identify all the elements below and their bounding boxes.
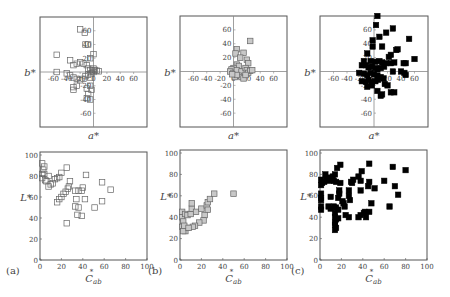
data-point [96,69,102,75]
data-point [394,47,400,53]
data-point [74,196,80,202]
data-point [338,162,344,168]
data-point [54,52,60,58]
x-tick-label: -40 [201,75,212,83]
plot-a-bottom: 020406080100020406080100Cab*L* [19,152,154,287]
data-point [347,197,353,203]
y-axis-label: L* [159,191,172,202]
y-tick-label: 0 [314,257,318,265]
data-point [392,183,398,189]
data-point [205,207,211,213]
data-point [318,207,324,213]
data-point [189,201,195,207]
plot-c-bottom: 020406080100020406080100Cab*L* [299,150,434,287]
data-point [207,196,213,202]
data-point [381,178,387,184]
data-point [381,64,387,70]
y-tick-label: -40 [220,96,231,104]
x-tick-label: 0 [318,263,322,271]
data-point [229,72,235,78]
data-point [332,227,338,233]
panel-label-b: (b) [148,265,162,276]
x-tick-label: -60 [188,75,199,83]
x-tick-label: 0 [178,263,182,271]
x-tick-label: 40 [116,75,125,83]
data-point [392,90,398,96]
data-point [366,209,372,215]
plot-b-top: -60-40-200204060-60-40-20204060a*b* [164,16,287,141]
data-point [83,172,89,178]
plot-a-top: -60-40-200204060-60-40-20204060a*b* [24,17,147,141]
data-point [377,34,383,40]
x-axis-label: a* [88,130,99,141]
data-point [247,38,253,44]
y-tick-label: 60 [363,26,372,34]
x-axis-label: a* [228,130,239,141]
data-point [249,67,255,73]
y-tick-label: -20 [220,82,231,90]
data-point [338,180,344,186]
data-point [46,184,52,190]
data-point [392,60,398,65]
data-point [379,92,385,98]
data-point [403,72,409,78]
y-tick-label: 100 [165,150,178,158]
data-point [199,206,205,212]
data-point [54,69,60,75]
x-tick-label: -40 [341,75,352,83]
data-point [379,44,385,50]
data-point [390,164,396,170]
y-axis-label: b* [24,67,35,78]
data-point [373,22,379,28]
x-tick-label: 60 [240,263,249,271]
data-point [369,83,375,89]
x-axis-label: Cab [365,273,382,286]
panel-label-c: (c) [291,265,305,276]
data-point [375,13,381,19]
x-tick-label: 100 [420,263,433,271]
data-point [387,204,393,210]
data-point [335,216,341,222]
data-point [349,180,355,186]
data-point [342,204,348,210]
data-point [99,198,105,204]
x-tick-label: 40 [78,263,87,271]
figure: -60-40-200204060-60-40-20204060a*b* -60-… [0,0,450,297]
data-point [211,191,217,197]
data-point [91,69,97,75]
y-tick-label: 40 [223,40,232,48]
data-point [188,211,194,217]
data-point [365,51,371,57]
data-point [82,196,88,202]
plot-c-top: -60-40-200204060-60-40-20204060a*b* [304,13,428,141]
data-point [328,194,334,200]
y-tick-label: 20 [29,236,38,244]
data-point [331,178,337,184]
x-tick-label: 80 [261,263,270,271]
x-tick-label: 40 [256,75,265,83]
data-point [71,87,77,93]
y-tick-label: 0 [34,257,38,265]
y-tick-label: 20 [223,54,232,62]
svg-text:*: * [230,268,234,276]
data-point [395,192,401,198]
data-point [318,197,324,203]
y-tick-label: -60 [220,110,231,118]
data-point [202,212,208,218]
y-tick-label: 40 [29,215,38,223]
data-point [366,161,372,167]
data-point [372,186,378,192]
x-axis-label: a* [369,130,380,141]
x-tick-label: 80 [121,263,130,271]
x-tick-label: -60 [48,75,59,83]
x-tick-label: 60 [129,75,138,83]
x-tick-label: 60 [380,263,389,271]
data-point [92,205,98,211]
data-point [346,188,352,194]
data-point [231,191,237,197]
x-tick-label: -60 [328,75,339,83]
data-point [366,179,372,185]
data-point [403,60,409,66]
data-point [369,201,375,207]
data-point [386,54,392,60]
